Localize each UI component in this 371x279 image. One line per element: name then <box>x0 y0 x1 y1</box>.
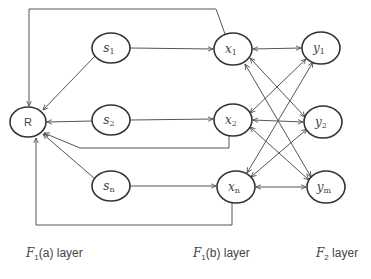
edge-s1-r <box>43 56 95 110</box>
node-y1: y1 <box>302 32 340 64</box>
edge-s2-r <box>47 121 92 122</box>
edge-xn-y1 <box>247 62 313 173</box>
layer-text: (a) layer <box>39 246 83 260</box>
edges <box>29 9 313 225</box>
edge-x1-r-loop <box>29 9 225 106</box>
art-network-diagram: R s1 s2 sn x1 x2 xn y1 <box>0 0 371 279</box>
layer-label-f1b: F1(b) layer <box>193 246 250 262</box>
edge-xn-r-loop <box>36 138 232 225</box>
layer-text: (b) layer <box>206 246 250 260</box>
edge-x1-y1 <box>253 48 301 49</box>
node-x2: x2 <box>214 104 252 136</box>
node-xn: xn <box>217 171 255 203</box>
node-s2: s2 <box>92 105 130 135</box>
edge-s2-x2 <box>130 119 213 120</box>
edge-s1-x1 <box>130 48 213 49</box>
nodes: R s1 s2 sn x1 x2 xn y1 <box>10 32 345 203</box>
edge-x2-r-loop <box>44 133 229 148</box>
node-y2: y2 <box>304 106 342 138</box>
node-s1: s1 <box>92 33 130 63</box>
layer-text: layer <box>329 246 358 260</box>
node-r: R <box>10 107 46 137</box>
node-sn: sn <box>92 171 130 201</box>
edge-sn-r <box>43 134 94 178</box>
node-ym: ym <box>307 171 345 203</box>
layer-label-f1a: F1(a) layer <box>26 246 83 262</box>
node-x1: x1 <box>214 33 252 65</box>
layer-label-f2: F2 layer <box>316 246 358 262</box>
svg-text:R: R <box>24 116 32 128</box>
